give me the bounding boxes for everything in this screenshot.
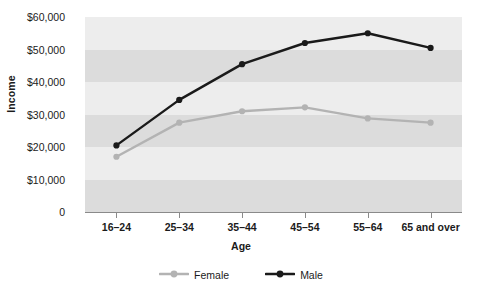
- series-data-point: [365, 115, 371, 121]
- x-axis-tick-mark: [431, 213, 432, 218]
- x-axis-tick-mark: [116, 213, 117, 218]
- y-axis-tick-label: $30,000: [5, 110, 65, 120]
- y-axis-tick-label: $60,000: [5, 12, 65, 22]
- series-data-point: [176, 120, 182, 126]
- series-line: [116, 33, 430, 145]
- x-axis-tick-label: 35–44: [227, 221, 256, 233]
- series-line: [116, 107, 430, 156]
- series-data-point: [427, 45, 433, 51]
- series-data-point: [113, 154, 119, 160]
- x-axis-tick-label: 45–54: [290, 221, 319, 233]
- x-axis-tick-mark: [305, 213, 306, 218]
- y-axis-tick-label: $10,000: [5, 175, 65, 185]
- legend-marker-icon: [159, 266, 189, 284]
- x-axis-tick-label: 65 and over: [401, 221, 459, 233]
- legend-label: Male: [300, 270, 323, 281]
- series-data-point: [239, 108, 245, 114]
- series-lines: [85, 17, 462, 212]
- series-data-point: [427, 120, 433, 126]
- x-axis-tick-label: 55–64: [353, 221, 382, 233]
- series-data-point: [302, 104, 308, 110]
- legend-item[interactable]: Male: [265, 266, 323, 284]
- x-axis-tick-label: 25–34: [165, 221, 194, 233]
- series-data-point: [176, 97, 182, 103]
- x-axis-line: [85, 212, 462, 213]
- y-axis-tick-label: $40,000: [5, 77, 65, 87]
- legend-marker-icon: [265, 266, 295, 284]
- y-axis-tick-label: $20,000: [5, 142, 65, 152]
- plot-area: [85, 17, 462, 212]
- series-data-point: [113, 142, 119, 148]
- x-axis-tick-label: 16–24: [102, 221, 131, 233]
- y-axis-tick-label: 0: [5, 207, 65, 217]
- legend-label: Female: [194, 270, 229, 281]
- series-data-point: [302, 40, 308, 46]
- legend-item[interactable]: Female: [159, 266, 229, 284]
- x-axis-tick-mark: [242, 213, 243, 218]
- series-data-point: [365, 30, 371, 36]
- chart-legend: FemaleMale: [0, 266, 482, 284]
- x-axis-tick-mark: [179, 213, 180, 218]
- x-axis-tick-mark: [368, 213, 369, 218]
- y-axis-tick-label: $50,000: [5, 45, 65, 55]
- series-data-point: [239, 61, 245, 67]
- income-by-age-line-chart: Income 0$10,000$20,000$30,000$40,000$50,…: [0, 0, 482, 296]
- x-axis-title: Age: [0, 240, 482, 252]
